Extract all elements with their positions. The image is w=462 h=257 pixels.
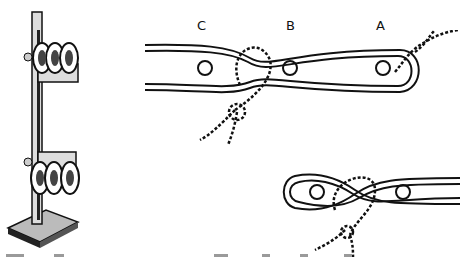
pulley-stand-illustration <box>0 0 110 250</box>
label-b: B <box>286 18 295 33</box>
label-a: A <box>376 18 385 33</box>
label-c: C <box>197 18 206 33</box>
strap-knot-diagram-bottom <box>275 160 462 257</box>
strap-knot-diagram-top <box>140 30 462 150</box>
